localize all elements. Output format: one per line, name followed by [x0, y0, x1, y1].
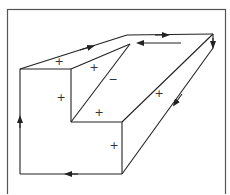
- plus-label: +: [54, 55, 63, 68]
- plus-label: +: [154, 87, 163, 100]
- figure-frame: [8, 10, 226, 195]
- edge-d-g: [122, 34, 213, 122]
- arrow-icon: [80, 46, 93, 50]
- block-outline: [20, 34, 213, 174]
- diagram-canvas: + + − + + + +: [0, 0, 230, 194]
- edge-c-d: [127, 34, 213, 35]
- direction-arrows: [20, 35, 213, 174]
- plus-label: +: [94, 106, 103, 119]
- plus-label: +: [56, 91, 65, 104]
- plus-label: +: [109, 139, 118, 152]
- edge-h-i: [122, 48, 213, 174]
- plus-label: +: [89, 61, 98, 74]
- minus-label: −: [108, 73, 117, 86]
